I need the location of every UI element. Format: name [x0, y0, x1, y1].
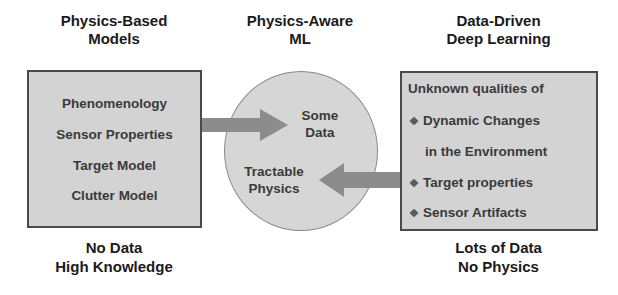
- label-line: Data: [290, 124, 350, 141]
- data-to-ml-arrow-icon: [318, 162, 400, 198]
- heading-line: Deep Learning: [400, 30, 597, 48]
- bullet-text: Sensor Artifacts: [423, 205, 527, 220]
- left-footer: No Data High Knowledge: [27, 238, 201, 276]
- right-intro-text: Unknown qualities of: [408, 81, 544, 96]
- right-bullet-dynamic-changes: ❖Dynamic Changes: [409, 113, 540, 128]
- left-item-phenomenology: Phenomenology: [27, 96, 202, 111]
- data-driven-deep-learning-heading: Data-Driven Deep Learning: [400, 12, 597, 48]
- right-bullet-target-properties: ❖Target properties: [409, 175, 533, 190]
- footer-line: No Physics: [400, 257, 597, 276]
- bullet-text: Dynamic Changes: [423, 113, 540, 128]
- heading-line: Data-Driven: [400, 12, 597, 30]
- tractable-physics-label: Tractable Physics: [236, 163, 312, 197]
- label-line: Physics: [236, 180, 312, 197]
- footer-line: High Knowledge: [27, 257, 201, 276]
- footer-line: No Data: [27, 238, 201, 257]
- left-item-target-model: Target Model: [27, 158, 202, 173]
- left-item-clutter-model: Clutter Model: [27, 188, 202, 203]
- bullet-text: Target properties: [423, 175, 533, 190]
- footer-line: Lots of Data: [400, 238, 597, 257]
- right-bullet-sensor-artifacts: ❖Sensor Artifacts: [409, 205, 527, 220]
- left-item-sensor-properties: Sensor Properties: [27, 127, 202, 142]
- label-line: Some: [290, 107, 350, 124]
- diamond-bullet-icon: ❖: [409, 207, 423, 220]
- physics-aware-ml-circle: [224, 71, 378, 231]
- right-bullet-dynamic-changes-cont: in the Environment: [425, 144, 547, 159]
- physics-based-models-heading: Physics-Based Models: [27, 12, 201, 48]
- diamond-bullet-icon: ❖: [409, 115, 423, 128]
- physics-aware-ml-heading: Physics-Aware ML: [210, 12, 390, 48]
- label-line: Tractable: [236, 163, 312, 180]
- heading-line: Physics-Based: [27, 12, 201, 30]
- heading-line: Physics-Aware: [210, 12, 390, 30]
- heading-line: ML: [210, 30, 390, 48]
- heading-line: Models: [27, 30, 201, 48]
- some-data-label: Some Data: [290, 107, 350, 141]
- physics-to-ml-arrow-icon: [202, 108, 290, 142]
- diamond-bullet-icon: ❖: [409, 177, 423, 190]
- right-footer: Lots of Data No Physics: [400, 238, 597, 276]
- physics-based-models-box: [27, 70, 202, 228]
